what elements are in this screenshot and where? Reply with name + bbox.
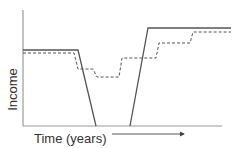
solid-income-line-recovery [130,28,231,126]
chart-plot [0,0,244,148]
solid-income-line [23,50,96,126]
y-axis-label: Income [5,65,20,115]
dashed-income-line [23,32,231,77]
x-axis-label: Time (years) [34,131,106,146]
